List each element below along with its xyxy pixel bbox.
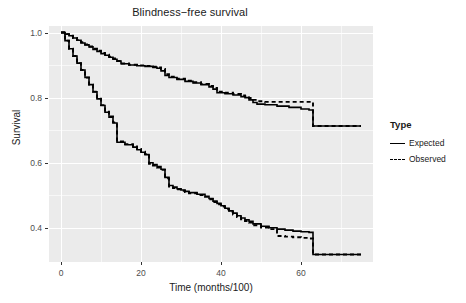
y-tick-label: 0.4: [12, 223, 42, 233]
legend-key-dashed-line-icon: [390, 151, 405, 166]
x-axis-title: Time (months/100): [49, 282, 373, 293]
y-tick-label: 1.0: [12, 28, 42, 38]
x-tick-mark: [301, 262, 302, 265]
y-tick-mark: [45, 33, 48, 34]
plot-panel: [49, 26, 373, 262]
x-tick-mark: [61, 262, 62, 265]
legend-item-expected[interactable]: Expected: [390, 135, 466, 150]
legend-item-observed[interactable]: Observed: [390, 151, 466, 166]
x-tick-label: 60: [281, 268, 321, 278]
y-axis-title: Survival: [11, 88, 22, 168]
legend: Type ExpectedObserved: [390, 119, 466, 167]
x-tick-label: 20: [121, 268, 161, 278]
x-tick-mark: [141, 262, 142, 265]
x-tick-mark: [221, 262, 222, 265]
y-tick-mark: [45, 98, 48, 99]
curve-layer: [49, 26, 373, 262]
y-tick-mark: [45, 228, 48, 229]
x-tick-label: 0: [41, 268, 81, 278]
legend-items: ExpectedObserved: [390, 135, 466, 166]
series-line-expected-lower: [61, 33, 361, 255]
legend-title: Type: [390, 119, 466, 130]
series-line-observed-lower: [61, 33, 361, 255]
legend-label: Observed: [409, 154, 446, 164]
legend-key-solid-line-icon: [390, 135, 405, 150]
y-tick-mark: [45, 163, 48, 164]
survival-chart: Blindness−free survival 0.40.60.81.0 020…: [0, 0, 466, 303]
x-tick-label: 40: [201, 268, 241, 278]
chart-title: Blindness−free survival: [0, 6, 380, 18]
legend-label: Expected: [409, 138, 444, 148]
